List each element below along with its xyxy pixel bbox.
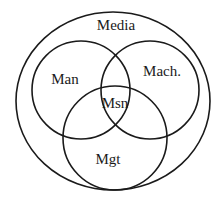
msn-label: Msn [102,95,129,111]
mach-label: Mach. [143,63,181,79]
media-label: Media [97,17,136,33]
venn-diagram: Media Man Mach. Msn Mgt [0,0,224,206]
mgt-label: Mgt [95,151,121,167]
man-label: Man [51,71,79,87]
mach-circle [101,41,199,139]
